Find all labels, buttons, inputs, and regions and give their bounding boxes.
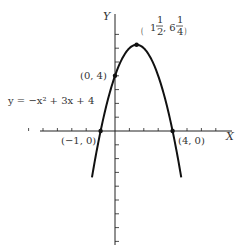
vertex-frac2-num: 1 [177,14,183,25]
parabola-chart: X Y y = −x² + 3x + 4 (0, 4) (−1, 0) (4, … [0,0,239,251]
parabola-curve [92,45,181,178]
vertex-whole: 1 [150,22,156,33]
x-intercept-right-point [170,129,174,133]
equation-label: y = −x² + 3x + 4 [7,95,94,106]
vertex-label: ( 1 1 2 , 6 1 4 ) [141,14,187,37]
x-intercept-left-point [98,129,102,133]
x-intercept-right-label: (4, 0) [178,135,205,146]
y-axis-label: Y [103,10,112,23]
y-intercept-point [113,74,117,78]
vertex-paren-right: ) [184,24,186,36]
vertex-frac2-den: 4 [177,26,183,37]
vertex-point [134,43,138,47]
x-axis-label: X [225,130,235,143]
x-intercept-left-label: (−1, 0) [61,135,96,146]
vertex-paren-left: ( [141,24,143,36]
y-intercept-label: (0, 4) [80,70,107,81]
vertex-mid: , 6 [163,22,176,33]
